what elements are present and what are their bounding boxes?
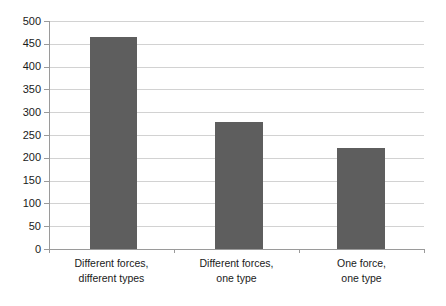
- x-tick-3: [424, 249, 425, 253]
- x-axis-label-2-line2: one type: [299, 271, 424, 286]
- y-axis-label-150: 150: [7, 175, 41, 186]
- x-axis-label-1-line2: one type: [174, 271, 299, 286]
- x-tick-2: [299, 249, 300, 253]
- y-axis-label-400: 400: [7, 61, 41, 72]
- y-axis-label-0: 0: [7, 244, 41, 255]
- x-axis-label-2: One force, one type: [299, 256, 424, 286]
- y-axis-labels: 500 450 400 350 300 250 200 150 100 50 0: [0, 0, 41, 306]
- x-axis-label-0-line2: different types: [49, 271, 174, 286]
- y-axis-label-250: 250: [7, 130, 41, 141]
- bar-different-forces-one-type[interactable]: [215, 122, 263, 249]
- y-axis-label-300: 300: [7, 107, 41, 118]
- x-tick-1: [174, 249, 175, 253]
- x-axis-label-1-line1: Different forces,: [200, 257, 274, 269]
- x-tick-0: [49, 249, 50, 253]
- bar-one-force-one-type[interactable]: [337, 148, 385, 249]
- x-axis-labels: Different forces, different types Differ…: [49, 256, 424, 300]
- bar-different-forces-different-types[interactable]: [90, 37, 137, 249]
- x-axis-label-0: Different forces, different types: [49, 256, 174, 286]
- y-axis-label-100: 100: [7, 198, 41, 209]
- bars-layer: [49, 21, 424, 249]
- y-axis-label-200: 200: [7, 152, 41, 163]
- y-axis-label-350: 350: [7, 84, 41, 95]
- y-axis-label-450: 450: [7, 38, 41, 49]
- y-axis-label-50: 50: [7, 221, 41, 232]
- x-axis-label-1: Different forces, one type: [174, 256, 299, 286]
- gridline-0-baseline: [49, 249, 424, 250]
- bar-chart: 500 450 400 350 300 250 200 150 100 50 0…: [0, 0, 446, 306]
- x-axis-label-0-line1: Different forces,: [75, 257, 149, 269]
- y-axis-label-500: 500: [7, 16, 41, 27]
- x-axis-label-2-line1: One force,: [337, 257, 386, 269]
